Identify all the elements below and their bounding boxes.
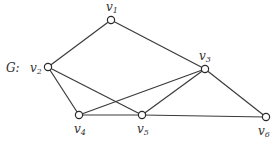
edge-v1-v3 — [111, 20, 205, 69]
graph-name-label: G: — [6, 61, 20, 75]
edge-v2-v5 — [48, 67, 142, 115]
edges — [48, 20, 266, 117]
node-label-v2: v2 — [30, 61, 42, 76]
node-v1 — [107, 16, 114, 23]
node-v5 — [138, 111, 145, 118]
edge-v2-v4 — [48, 67, 79, 115]
node-v6 — [262, 113, 269, 120]
node-label-v5: v5 — [137, 122, 149, 137]
node-v3 — [201, 65, 208, 72]
labels: v1v2v3v4v5v6 — [30, 0, 270, 139]
node-label-v3: v3 — [199, 49, 211, 64]
edge-v3-v5 — [142, 69, 205, 115]
nodes — [44, 16, 269, 120]
edge-v3-v6 — [205, 69, 266, 117]
graph-diagram: v1v2v3v4v5v6 G: — [0, 0, 276, 145]
node-v4 — [75, 111, 82, 118]
node-v2 — [44, 63, 51, 70]
node-label-v6: v6 — [258, 124, 270, 139]
node-label-v1: v1 — [106, 0, 118, 15]
edge-v5-v6 — [142, 115, 266, 117]
edge-v1-v2 — [48, 20, 111, 67]
node-label-v4: v4 — [74, 122, 86, 137]
